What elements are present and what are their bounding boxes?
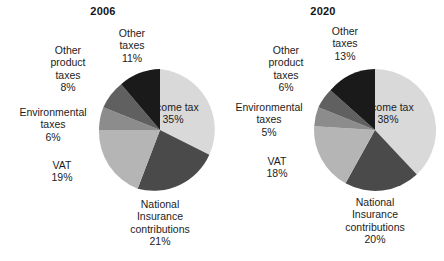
slice-label-name-line1: Income: [362, 101, 396, 113]
slice-label-name-line2: Insurance: [112, 210, 208, 222]
slice-label-pct: 38%: [377, 113, 398, 125]
slice-label-environmental-taxes-2006: Environmental taxes 6%: [9, 106, 97, 143]
slice-label-name-line2: Insurance: [327, 208, 423, 220]
slice-label-name-line2: taxes: [103, 39, 161, 51]
slice-label-name-line1: Other: [316, 25, 374, 37]
slice-label-pct: 18%: [255, 167, 299, 179]
slice-label-name-line2: tax: [400, 101, 414, 113]
slice-label-other-taxes-2006: Other taxes 11%: [103, 27, 161, 64]
slice-label-pct: 6%: [258, 81, 314, 93]
slice-label-pct: 20%: [327, 233, 423, 245]
slice-label-other-product-taxes-2006: Other product taxes 8%: [40, 44, 96, 94]
slice-label-name-line1: National: [112, 198, 208, 210]
slice-label-name-line3: taxes: [258, 69, 314, 81]
chart-panel-2020: 2020 Income tax 38%: [222, 0, 444, 261]
pie-svg-2020: [313, 68, 437, 192]
slice-label-pct: 6%: [9, 131, 97, 143]
slice-label-name-line2: taxes: [9, 118, 97, 130]
slice-label-name-line1: VAT: [40, 159, 84, 171]
slice-label-vat-2006: VAT 19%: [40, 159, 84, 184]
slice-label-environmental-taxes-2020: Environmental taxes 5%: [225, 101, 313, 138]
slice-label-name-line2: tax: [185, 101, 199, 113]
slice-label-other-taxes-2020: Other taxes 13%: [316, 25, 374, 62]
pie-2006: [98, 68, 222, 192]
slice-label-name-line3: contributions: [327, 221, 423, 233]
slice-label-name-line1: Environmental: [9, 106, 97, 118]
slice-label-name-line1: Environmental: [225, 101, 313, 113]
slice-label-pct: 19%: [40, 171, 84, 183]
slice-label-name-line1: Other: [258, 44, 314, 56]
slice-label-pct: 35%: [162, 113, 183, 125]
slice-label-name-line1: Other: [103, 27, 161, 39]
slice-label-income-tax-2006: Income tax 35%: [142, 101, 204, 126]
chart-title-2006: 2006: [0, 5, 214, 17]
pie-2020: [313, 68, 437, 192]
slice-label-name-line1: National: [327, 196, 423, 208]
chart-title-2020: 2020: [212, 5, 434, 17]
slice-label-name-line2: taxes: [225, 113, 313, 125]
slice-label-national-insurance-2006: National Insurance contributions 21%: [112, 198, 208, 248]
slice-label-name-line2: product: [258, 56, 314, 68]
slice-label-other-product-taxes-2020: Other product taxes 6%: [258, 44, 314, 94]
pie-svg-2006: [98, 68, 222, 192]
slice-label-pct: 5%: [225, 126, 313, 138]
slice-label-name-line1: Income: [147, 101, 181, 113]
pie-chart-figure: 2006 Income tax 35%: [0, 0, 444, 261]
slice-label-name-line1: VAT: [255, 155, 299, 167]
slice-label-name-line1: Other: [40, 44, 96, 56]
slice-label-income-tax-2020: Income tax 38%: [357, 101, 419, 126]
chart-panel-2006: 2006 Income tax 35%: [0, 0, 222, 261]
slice-label-pct: 11%: [103, 52, 161, 64]
slice-label-national-insurance-2020: National Insurance contributions 20%: [327, 196, 423, 246]
slice-label-name-line3: taxes: [40, 69, 96, 81]
slice-label-name-line2: product: [40, 56, 96, 68]
slice-label-name-line3: contributions: [112, 223, 208, 235]
slice-label-pct: 8%: [40, 81, 96, 93]
slice-label-name-line2: taxes: [316, 37, 374, 49]
slice-label-pct: 13%: [316, 50, 374, 62]
slice-label-vat-2020: VAT 18%: [255, 155, 299, 180]
slice-label-pct: 21%: [112, 235, 208, 247]
